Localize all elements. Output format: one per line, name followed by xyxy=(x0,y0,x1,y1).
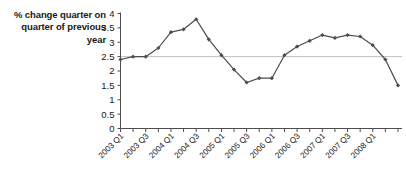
x-axis-tick-label: 2003 Q1 xyxy=(97,131,126,160)
x-axis-tick-label: 2007 Q1 xyxy=(299,131,328,160)
x-axis-tick-label: 2005 Q1 xyxy=(198,131,227,160)
x-axis-tick-label: 2006 Q1 xyxy=(248,131,277,160)
y-axis-tick-label: 1.5 xyxy=(101,80,114,91)
y-axis-tick-label: 2.5 xyxy=(101,51,114,62)
data-series-line xyxy=(121,19,399,85)
data-point-marker xyxy=(333,36,337,40)
data-point-marker xyxy=(308,39,312,43)
data-series-markers xyxy=(118,17,400,87)
data-point-marker xyxy=(396,83,400,87)
x-axis-tick-label: 2007 Q3 xyxy=(324,131,353,160)
x-axis-tick-label: 2004 Q3 xyxy=(173,131,202,160)
y-axis-tick-label: 4 xyxy=(109,8,114,19)
y-axis-tick-label: 0.5 xyxy=(101,109,114,120)
line-chart-plot: 00.511.522.533.54 2003 Q12003 Q32004 Q12… xyxy=(0,0,406,188)
x-axis-tick-label: 2006 Q3 xyxy=(273,131,302,160)
y-axis-tick-label: 3.5 xyxy=(101,22,114,33)
x-axis-tick-label: 2003 Q3 xyxy=(122,131,151,160)
data-point-marker xyxy=(131,55,135,59)
y-axis-tick-label: 0 xyxy=(109,123,114,134)
data-point-marker xyxy=(257,76,261,80)
x-axis-tick-label: 2008 Q1 xyxy=(349,131,378,160)
y-axis-tick-label: 2 xyxy=(109,65,114,76)
x-axis-tick-label: 2004 Q1 xyxy=(147,131,176,160)
y-axis-tick-label: 3 xyxy=(109,37,114,48)
x-axis-tick-label: 2005 Q3 xyxy=(223,131,252,160)
data-point-marker xyxy=(320,33,324,37)
y-axis-tick-label: 1 xyxy=(109,94,114,105)
data-point-marker xyxy=(345,33,349,37)
y-axis-tick-labels: 00.511.522.533.54 xyxy=(101,8,114,134)
chart-figure: % change quarter on quarter of previous … xyxy=(0,0,406,188)
x-axis-tick-labels: 2003 Q12003 Q32004 Q12004 Q32005 Q12005 … xyxy=(97,131,378,160)
data-point-marker xyxy=(118,57,122,61)
x-axis-tick-marks xyxy=(121,129,399,133)
